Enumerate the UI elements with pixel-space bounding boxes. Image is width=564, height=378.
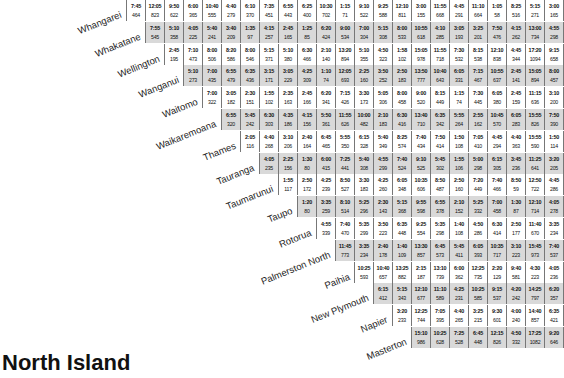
travel-time: 5:45 xyxy=(241,109,259,120)
distance-km: 361 xyxy=(317,120,335,128)
table-cell: 2:40178 xyxy=(374,240,393,261)
table-cell: 15:55826 xyxy=(526,109,545,130)
travel-time: 2:45 xyxy=(279,22,297,33)
travel-time: 6:15 xyxy=(488,153,506,164)
distance-km: 242 xyxy=(241,120,259,128)
travel-time: 3:35 xyxy=(317,196,335,207)
table-cell: 15:05978 xyxy=(412,44,431,65)
table-cell: 6:35342 xyxy=(431,109,450,130)
table-cell: 6:25400 xyxy=(298,0,317,21)
distance-km: 411 xyxy=(450,251,468,259)
travel-time: 4:25 xyxy=(450,283,468,294)
distance-km: 80 xyxy=(298,164,316,172)
table-cell: 5:00298 xyxy=(469,153,488,174)
table-cell: 2:45166 xyxy=(298,87,317,108)
table-cell: 6:30416 xyxy=(393,109,412,130)
table-cell: 7:25528 xyxy=(450,327,469,348)
travel-time: 7:55 xyxy=(146,22,164,33)
table-cell: 5:25296 xyxy=(355,196,374,217)
table-cell: 8:20586 xyxy=(222,44,241,65)
distance-km: 201 xyxy=(469,33,487,41)
travel-time: 5:40 xyxy=(374,131,392,142)
distance-km: 363 xyxy=(507,142,525,150)
distance-km: 537 xyxy=(545,251,563,259)
distance-km: 209 xyxy=(222,33,240,41)
travel-time: 5:15 xyxy=(526,0,544,11)
distance-km: 466 xyxy=(298,55,316,63)
table-cell: 8:00506 xyxy=(203,44,222,65)
distance-km: 140 xyxy=(317,55,335,63)
distance-km: 260 xyxy=(374,185,392,193)
travel-time: 7:00 xyxy=(488,196,506,207)
table-cell: 1:55117 xyxy=(279,174,298,195)
distance-km: 573 xyxy=(431,251,449,259)
table-cell: 2:45165 xyxy=(279,22,298,43)
distance-km: 514 xyxy=(336,207,354,215)
distance-km: 225 xyxy=(184,33,202,41)
travel-time: 5:15 xyxy=(260,44,278,55)
travel-time: 5:00 xyxy=(469,153,487,164)
distance-km: 534 xyxy=(336,33,354,41)
travel-time: 9:55 xyxy=(412,196,430,207)
travel-time: 4:35 xyxy=(279,109,297,120)
travel-time: 2:30 xyxy=(241,87,259,98)
distance-km: 823 xyxy=(146,11,164,19)
distance-km: 279 xyxy=(222,11,240,19)
distance-km: 278 xyxy=(545,207,563,215)
travel-time: 3:25 xyxy=(469,22,487,33)
travel-time: 7:30 xyxy=(450,44,468,55)
travel-time: 4:45 xyxy=(450,0,468,11)
travel-time: 12:50 xyxy=(526,174,544,185)
distance-km: 108 xyxy=(450,142,468,150)
distance-km: 350 xyxy=(336,142,354,150)
table-cell: 10:40643 xyxy=(431,65,450,86)
table-cell: 8:00458 xyxy=(393,87,412,108)
travel-time: 6:05 xyxy=(393,174,411,185)
table-cell: 7:40466 xyxy=(488,174,507,195)
distance-km: 235 xyxy=(260,164,278,172)
table-row: 2:451957:104738:005068:205868:005465:153… xyxy=(164,44,564,65)
travel-time: 9:30 xyxy=(488,305,506,316)
distance-km: 668 xyxy=(431,11,449,19)
travel-time: 5:35 xyxy=(355,218,373,229)
table-cell: 1:3087 xyxy=(507,196,526,217)
distance-km: 299 xyxy=(355,229,373,237)
table-cell: 5:55264 xyxy=(450,109,469,130)
distance-km: 441 xyxy=(336,164,354,172)
travel-time: 8:20 xyxy=(222,44,240,55)
travel-time: 1:10 xyxy=(317,65,335,76)
travel-time: 5:55 xyxy=(336,131,354,142)
table-cell: 10:35717 xyxy=(488,240,507,261)
table-cell: 7:50476 xyxy=(488,22,507,43)
travel-time: 9:20 xyxy=(545,327,563,338)
distance-km: 298 xyxy=(545,33,563,41)
distance-km: 744 xyxy=(412,316,430,324)
distance-km: 229 xyxy=(279,76,297,84)
travel-time: 7:25 xyxy=(336,153,354,164)
travel-time: 1:15 xyxy=(450,87,468,98)
travel-time: 11:15 xyxy=(526,87,544,98)
distance-km: 183 xyxy=(355,185,373,193)
distance-km: 239 xyxy=(317,185,335,193)
distance-km: 458 xyxy=(393,98,411,106)
distance-km: 302 xyxy=(431,164,449,172)
travel-time: 1:30 xyxy=(507,196,525,207)
table-cell: 5:45411 xyxy=(450,240,469,261)
travel-time: 9:00 xyxy=(336,22,354,33)
travel-time: 11:55 xyxy=(431,44,449,55)
table-cell: 7:00304 xyxy=(355,22,374,43)
travel-time: 4:45 xyxy=(488,131,506,142)
distance-km: 162 xyxy=(469,120,487,128)
distance-km: 344 xyxy=(507,55,525,63)
table-cell: 6:00362 xyxy=(450,262,469,283)
travel-time: 7:35 xyxy=(260,0,278,11)
table-cell: 8:10514 xyxy=(336,196,355,217)
table-cell: 6:20341 xyxy=(317,87,336,108)
distance-km: 200 xyxy=(545,98,563,106)
distance-km: 309 xyxy=(298,76,316,84)
distance-km: 434 xyxy=(412,142,430,150)
travel-time: 2:45 xyxy=(507,65,525,76)
travel-time: 4:25 xyxy=(298,65,316,76)
travel-time: 9:25 xyxy=(412,218,430,229)
travel-time: 1:40 xyxy=(450,218,468,229)
